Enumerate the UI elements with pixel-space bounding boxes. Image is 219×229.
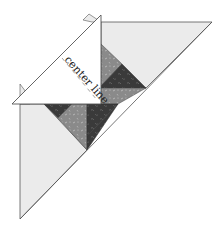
center-line-template: center line	[12, 15, 112, 107]
quilt-diagram: center line	[0, 0, 219, 229]
